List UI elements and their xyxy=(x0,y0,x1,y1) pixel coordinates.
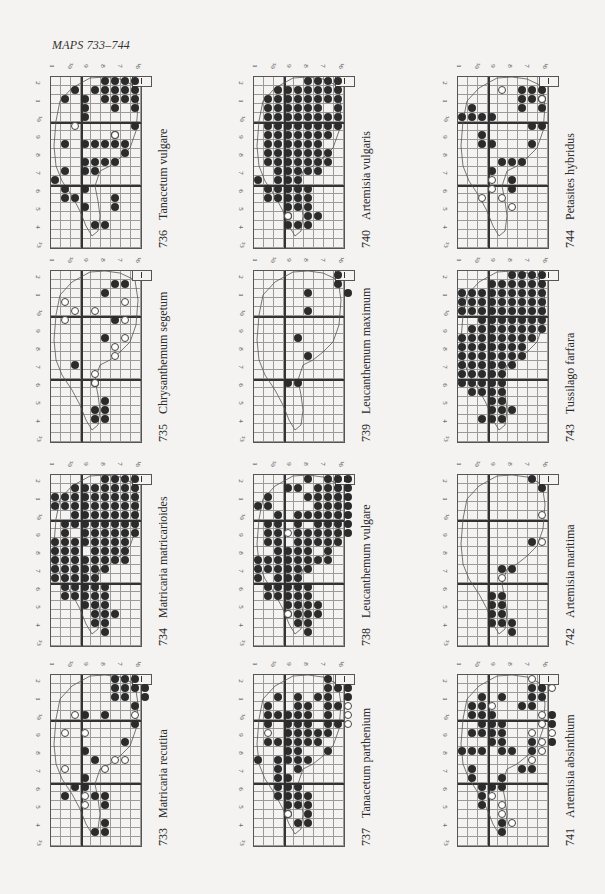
record-dot-open xyxy=(91,370,99,378)
record-dot-filled xyxy=(284,729,292,737)
record-dot-filled xyxy=(131,702,139,710)
top-tick-label: ²0 xyxy=(473,63,481,69)
record-dot-filled xyxy=(81,140,89,148)
record-dot-filled xyxy=(81,158,89,166)
top-tick-label: ¹6 xyxy=(134,461,142,467)
left-tick-label: 1 xyxy=(441,697,449,701)
record-dot-filled xyxy=(121,475,129,483)
record-dot-filled xyxy=(324,702,332,710)
top-tick-label: ¹6 xyxy=(134,257,142,263)
record-dot-filled xyxy=(101,556,109,564)
record-dot-filled xyxy=(71,583,79,591)
left-tick-label: 6 xyxy=(34,787,42,791)
record-dot-filled xyxy=(478,783,486,791)
record-dot-filled xyxy=(111,520,119,528)
record-dot-filled xyxy=(91,538,99,546)
record-dot-filled xyxy=(518,307,526,315)
record-dot-filled xyxy=(81,783,89,791)
record-dot-filled xyxy=(334,86,342,94)
left-tick-label: 5 xyxy=(34,401,42,405)
record-dot-filled xyxy=(488,334,496,342)
record-dot-filled xyxy=(264,502,272,510)
left-tick-label: 5 xyxy=(34,207,42,211)
record-dot-open xyxy=(264,729,272,737)
left-tick-label: 7 xyxy=(237,569,245,573)
record-dot-filled xyxy=(478,747,486,755)
record-dot-filled xyxy=(344,529,352,537)
top-tick-label: 8 xyxy=(99,64,107,68)
record-dot-filled xyxy=(101,610,109,618)
top-tick-label: 1 xyxy=(48,462,56,466)
record-dot-filled xyxy=(101,511,109,519)
record-dot-filled xyxy=(61,556,69,564)
left-tick-label: 8 xyxy=(237,153,245,157)
record-dot-filled xyxy=(91,511,99,519)
record-dot-filled xyxy=(548,720,556,728)
record-dot-filled xyxy=(508,406,516,414)
record-dot-filled xyxy=(91,502,99,510)
species-name: Matricaria recutita xyxy=(156,729,170,818)
left-tick-label: 6 xyxy=(441,189,449,193)
record-dot-filled xyxy=(284,801,292,809)
left-tick-label: 1 xyxy=(237,293,245,297)
record-dot-filled xyxy=(508,361,516,369)
record-dot-filled xyxy=(51,574,59,582)
left-tick-label: 7 xyxy=(34,171,42,175)
record-dot-filled xyxy=(61,502,69,510)
left-tick-label: ³0 xyxy=(238,514,246,520)
record-dot-filled xyxy=(274,122,282,130)
record-dot-open xyxy=(111,756,119,764)
left-tick-label: 2 xyxy=(237,679,245,683)
record-dot-filled xyxy=(284,379,292,387)
record-dot-filled xyxy=(488,343,496,351)
record-dot-filled xyxy=(334,529,342,537)
record-dot-open xyxy=(538,95,546,103)
record-dot-filled xyxy=(264,556,272,564)
record-dot-filled xyxy=(468,765,476,773)
record-dot-filled xyxy=(284,95,292,103)
record-dot-filled xyxy=(121,502,129,510)
record-dot-filled xyxy=(121,684,129,692)
record-dot-filled xyxy=(314,131,322,139)
record-dot-filled xyxy=(344,289,352,297)
record-dot-filled xyxy=(91,828,99,836)
record-dot-filled xyxy=(488,352,496,360)
record-dot-open xyxy=(121,756,129,764)
record-dot-filled xyxy=(314,95,322,103)
record-dot-filled xyxy=(478,415,486,423)
top-tick-label: ²0 xyxy=(269,461,277,467)
record-dot-filled xyxy=(488,316,496,324)
record-dot-filled xyxy=(264,149,272,157)
record-dot-open xyxy=(81,729,89,737)
top-tick-label: 8 xyxy=(302,64,310,68)
record-dot-filled xyxy=(284,574,292,582)
record-dot-filled xyxy=(294,203,302,211)
species-name: Artemisia vulgaris xyxy=(359,131,373,220)
record-dot-filled xyxy=(498,619,506,627)
record-dot-filled xyxy=(478,379,486,387)
record-dot-open xyxy=(61,316,69,324)
record-dot-filled xyxy=(468,113,476,121)
record-dot-filled xyxy=(468,343,476,351)
map-744: 1²0987¹621³0987654²3744Petasites hybridu… xyxy=(457,76,577,276)
record-dot-filled xyxy=(458,379,466,387)
record-dot-filled xyxy=(488,783,496,791)
left-tick-label: 9 xyxy=(237,733,245,737)
record-dot-filled xyxy=(498,316,506,324)
record-dot-filled xyxy=(304,592,312,600)
record-dot-filled xyxy=(508,316,516,324)
record-dot-filled xyxy=(274,592,282,600)
record-dot-filled xyxy=(61,493,69,501)
record-dot-filled xyxy=(121,520,129,528)
record-dot-filled xyxy=(81,493,89,501)
record-dot-filled xyxy=(294,176,302,184)
record-dot-filled xyxy=(294,122,302,130)
record-dot-filled xyxy=(274,95,282,103)
map-caption: 734Matricaria matricarioides xyxy=(156,496,171,646)
record-dot-filled xyxy=(51,565,59,573)
record-dot-open xyxy=(61,729,69,737)
record-dot-open xyxy=(121,334,129,342)
record-dot-filled xyxy=(324,122,332,130)
record-dot-filled xyxy=(254,502,262,510)
species-name: Tanacetum parthenium xyxy=(359,708,373,818)
